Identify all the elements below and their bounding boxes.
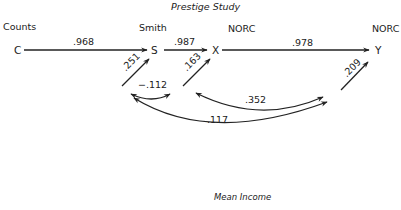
- label-norc-x: NORC: [228, 24, 255, 34]
- diagram-title: Prestige Study: [171, 2, 240, 12]
- corr-x-y: .352: [245, 95, 266, 105]
- node-x: X: [212, 45, 219, 56]
- node-s: S: [151, 45, 158, 56]
- label-counts: Counts: [3, 22, 36, 32]
- label-smith: Smith: [139, 23, 167, 33]
- coef-s-x: .987: [174, 37, 195, 47]
- node-y: Y: [375, 45, 381, 56]
- label-norc-y: NORC: [372, 24, 399, 34]
- coef-c-s: .968: [73, 37, 94, 47]
- curve-s-x-correlation: [131, 94, 170, 99]
- corr-s-x: −.112: [138, 80, 167, 90]
- corr-s-y: .117: [207, 115, 228, 125]
- coef-x-y: .978: [292, 38, 313, 48]
- curve-s-y-correlation: [134, 98, 327, 123]
- path-diagram-lines: [0, 0, 401, 210]
- diagram-footer: Mean Income: [214, 193, 271, 202]
- node-c: C: [14, 45, 21, 56]
